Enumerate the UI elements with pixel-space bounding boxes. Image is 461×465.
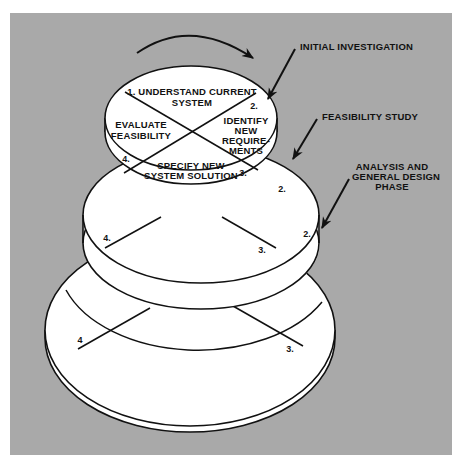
bottom-tier-number-2: 2. <box>303 229 311 239</box>
quadrant-2-label-line4: MENTS <box>229 145 263 156</box>
initial-investigation-arrow-icon <box>268 49 295 99</box>
spiral-development-diagram: 1. UNDERSTAND CURRENT SYSTEM 2. IDENTIFY… <box>0 0 461 465</box>
middle-tier-number-4: 4. <box>103 233 111 243</box>
quadrant-1-label-line1: 1. UNDERSTAND CURRENT <box>127 86 257 97</box>
callout-analysis-line3: PHASE <box>352 182 432 192</box>
quadrant-4-number: 4. <box>122 154 130 164</box>
analysis-phase-arrow-icon <box>322 179 349 228</box>
middle-tier-number-3: 3. <box>258 245 266 255</box>
callout-feasibility-study: FEASIBILITY STUDY <box>322 112 418 122</box>
quadrant-4-label-line2: FEASIBILITY <box>111 130 172 141</box>
middle-tier-number-2: 2. <box>278 184 286 194</box>
quadrant-4-label-line1: EVALUATE <box>115 119 166 130</box>
bottom-tier-number-3: 3. <box>286 344 294 354</box>
quadrant-3-label-line2: SYSTEM SOLUTION <box>144 170 238 181</box>
quadrant-1-label-line2: SYSTEM <box>172 97 212 108</box>
callout-analysis-phase: ANALYSIS AND GENERAL DESIGN PHASE <box>352 162 432 192</box>
rotation-arrow-icon <box>137 36 253 58</box>
quadrant-2-number: 2. <box>250 101 258 111</box>
callout-initial-investigation: INITIAL INVESTIGATION <box>300 42 413 52</box>
bottom-tier-number-4: 4 <box>77 335 82 345</box>
feasibility-study-arrow-icon <box>293 119 317 159</box>
quadrant-3-number: 3. <box>239 168 247 178</box>
